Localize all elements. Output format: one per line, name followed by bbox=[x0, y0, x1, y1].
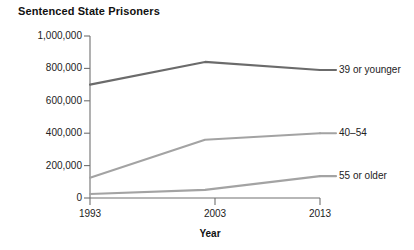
y-tick-label-0: 0 bbox=[10, 192, 82, 203]
y-tick-label-200000: 200,000 bbox=[10, 160, 82, 171]
series-line-55-or-older bbox=[90, 176, 320, 194]
series-line-40-54 bbox=[90, 133, 320, 178]
y-tick-label-400000: 400,000 bbox=[10, 127, 82, 138]
series-label-40-54: 40–54 bbox=[339, 127, 367, 138]
chart-figure: Sentenced State Prisoners bbox=[0, 0, 414, 250]
y-tick-label-600000: 600,000 bbox=[10, 95, 82, 106]
series-label-39-or-younger: 39 or younger bbox=[339, 64, 401, 75]
x-tick-label-2013: 2013 bbox=[292, 208, 348, 219]
x-axis-ticks bbox=[90, 198, 320, 205]
x-tick-label-2003: 2003 bbox=[187, 208, 243, 219]
series-label-leaders bbox=[320, 70, 336, 176]
y-axis-ticks bbox=[84, 36, 90, 198]
y-tick-label-1000000: 1,000,000 bbox=[10, 30, 82, 41]
x-tick-label-1993: 1993 bbox=[62, 208, 118, 219]
series-label-55-or-older: 55 or older bbox=[339, 170, 387, 181]
x-axis-title: Year bbox=[180, 228, 240, 239]
y-tick-label-800000: 800,000 bbox=[10, 62, 82, 73]
series-line-39-or-younger bbox=[90, 62, 320, 85]
